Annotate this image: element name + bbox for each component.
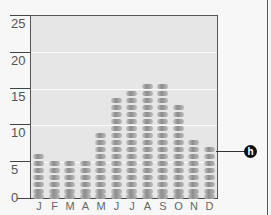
pill-unit <box>204 147 215 152</box>
pill-unit <box>142 182 153 187</box>
pill-unit <box>126 194 137 199</box>
ylabel-15: 15 <box>11 90 25 103</box>
gridline-15 <box>31 89 217 90</box>
pill-unit <box>142 168 153 173</box>
pill-unit <box>142 112 153 117</box>
pill-unit <box>204 154 215 159</box>
xlabel-4: M <box>94 200 108 212</box>
pill-unit <box>111 98 122 103</box>
pill-unit <box>157 140 168 145</box>
pill-unit <box>126 140 137 145</box>
bar-3 <box>80 159 92 199</box>
pill-unit <box>188 175 199 180</box>
pill-unit <box>49 161 60 166</box>
pill-unit <box>157 161 168 166</box>
pill-unit <box>126 98 137 103</box>
pill-unit <box>33 168 44 173</box>
pill-unit <box>111 194 122 199</box>
pill-unit <box>157 98 168 103</box>
ylabel-25: 25 <box>11 17 25 30</box>
pill-unit <box>111 168 122 173</box>
pill-unit <box>142 175 153 180</box>
pill-unit <box>173 105 184 110</box>
pill-unit <box>173 154 184 159</box>
ylabel-5: 5 <box>11 163 18 176</box>
bar-2 <box>64 159 76 199</box>
pill-unit <box>95 154 106 159</box>
pill-unit <box>157 182 168 187</box>
pill-unit <box>111 161 122 166</box>
pill-unit <box>111 154 122 159</box>
pill-unit <box>33 154 44 159</box>
pill-unit <box>95 194 106 199</box>
pill-unit <box>142 147 153 152</box>
pill-unit <box>33 194 44 199</box>
pill-unit <box>33 182 44 187</box>
annotation-marker: h <box>244 145 257 158</box>
marker-leader-line <box>216 151 246 152</box>
xlabel-2: M <box>63 200 77 212</box>
pill-unit <box>142 194 153 199</box>
pill-unit <box>80 194 91 199</box>
pill-unit <box>204 161 215 166</box>
pill-unit <box>173 147 184 152</box>
pill-unit <box>111 133 122 138</box>
bar-9 <box>173 103 185 199</box>
pill-unit <box>188 154 199 159</box>
pill-unit <box>111 119 122 124</box>
pill-unit <box>157 91 168 96</box>
pill-unit <box>111 126 122 131</box>
pill-unit <box>204 175 215 180</box>
pill-unit <box>142 140 153 145</box>
pill-unit <box>157 133 168 138</box>
pill-unit <box>64 168 75 173</box>
pill-unit <box>64 182 75 187</box>
pill-unit <box>157 84 168 89</box>
pill-unit <box>111 140 122 145</box>
pill-unit <box>142 105 153 110</box>
pill-unit <box>142 98 153 103</box>
pill-unit <box>49 194 60 199</box>
pill-unit <box>126 112 137 117</box>
pill-unit <box>111 147 122 152</box>
pill-unit <box>157 147 168 152</box>
pill-unit <box>126 168 137 173</box>
pill-unit <box>49 175 60 180</box>
ylabel-10: 10 <box>11 126 25 139</box>
pill-unit <box>111 175 122 180</box>
pill-unit <box>126 119 137 124</box>
pill-unit <box>111 112 122 117</box>
bar-6 <box>126 89 138 199</box>
pill-unit <box>64 194 75 199</box>
pill-unit <box>157 126 168 131</box>
pill-unit <box>173 133 184 138</box>
pill-unit <box>80 182 91 187</box>
xlabel-9: O <box>172 200 186 212</box>
pill-unit <box>157 194 168 199</box>
pill-unit <box>126 126 137 131</box>
pill-unit <box>33 161 44 166</box>
bar-4 <box>95 131 107 199</box>
pill-unit <box>95 147 106 152</box>
pill-unit <box>204 182 215 187</box>
pill-unit <box>173 168 184 173</box>
pill-unit <box>111 182 122 187</box>
xlabel-5: J <box>110 200 124 212</box>
pill-unit <box>126 182 137 187</box>
pill-unit <box>95 175 106 180</box>
bar-10 <box>188 138 200 199</box>
xlabel-0: J <box>32 200 46 212</box>
pill-unit <box>188 161 199 166</box>
gridline-20 <box>31 52 217 53</box>
pill-unit <box>188 140 199 145</box>
pill-unit <box>157 175 168 180</box>
pill-unit <box>126 147 137 152</box>
bar-5 <box>111 96 123 199</box>
pill-unit <box>64 161 75 166</box>
pill-unit <box>80 168 91 173</box>
pill-unit <box>95 161 106 166</box>
xlabel-10: N <box>187 200 201 212</box>
pill-unit <box>173 119 184 124</box>
pill-unit <box>126 154 137 159</box>
pill-unit <box>80 175 91 180</box>
